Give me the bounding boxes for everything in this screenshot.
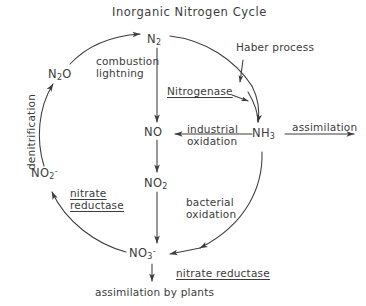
label-combustion: combustion <box>96 56 159 68</box>
label-bacterial-oxidation-line2: oxidation <box>186 209 236 221</box>
label-bacterial: bacterial <box>186 197 236 209</box>
label-nitrate-reductase-left: nitrate reductase <box>70 188 124 212</box>
species-n2: N2 <box>147 33 161 48</box>
label-industrial: industrial <box>187 124 238 136</box>
leader-nitrogenase <box>232 95 248 101</box>
label-industrial-oxidation: industrial oxidation <box>187 124 238 148</box>
label-assimilation: assimilation <box>292 122 357 134</box>
label-assimilation-by-plants: assimilation by plants <box>95 287 214 299</box>
arc-no2minus-to-n2o <box>39 84 53 166</box>
label-nitrogenase: Nitrogenase <box>167 86 233 98</box>
diagram-title: Inorganic Nitrogen Cycle <box>112 6 267 19</box>
label-bacterial-oxidation: bacterial oxidation <box>186 197 236 221</box>
label-nitrate-reductase-bottom: nitrate reductase <box>176 268 270 280</box>
species-no: NO <box>144 126 162 139</box>
species-nh3: NH3 <box>252 127 275 142</box>
nitrogen-cycle-diagram: Inorganic Nitrogen Cycle N2 N2O NO NH3 N… <box>0 0 366 306</box>
label-oxidation: oxidation <box>187 136 238 148</box>
label-denitrification: denitrification <box>26 94 38 170</box>
label-combustion-lightning: combustion lightning <box>96 56 159 80</box>
species-n2o: N2O <box>48 68 72 83</box>
species-no2: NO2 <box>144 177 168 192</box>
label-reductase: reductase <box>70 200 124 212</box>
label-lightning: lightning <box>96 68 159 80</box>
arc-nh3-to-no3-entry <box>170 248 200 254</box>
species-nitrate: NO3- <box>129 247 156 262</box>
label-haber-process: Haber process <box>236 42 314 54</box>
label-nitrate: nitrate <box>70 188 124 200</box>
